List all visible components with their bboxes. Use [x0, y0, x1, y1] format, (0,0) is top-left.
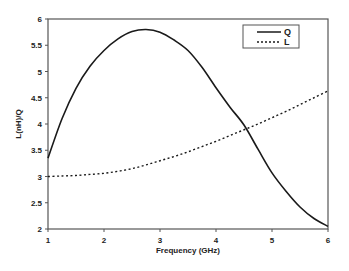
y-tick-label: 3.5	[31, 146, 43, 155]
legend: Q L	[243, 25, 299, 48]
legend-q-label: Q	[284, 27, 291, 37]
y-tick-label: 2.5	[31, 199, 43, 208]
y-axis-title: L(nH)/Q	[14, 109, 23, 138]
x-tick-label: 3	[158, 236, 163, 245]
x-axis-title: Frequency (GHz)	[156, 246, 220, 255]
y-tick-label: 4	[38, 120, 43, 129]
series-q-line	[48, 29, 328, 226]
series-layer	[48, 29, 328, 226]
y-tick-label: 2	[38, 225, 43, 234]
y-tick-label: 3	[38, 173, 43, 182]
x-tick-label: 1	[46, 236, 51, 245]
line-chart: 22.533.544.555.56 123456 Frequency (GHz)…	[0, 0, 349, 271]
x-tick-label: 5	[270, 236, 275, 245]
y-tick-label: 4.5	[31, 94, 43, 103]
y-axis-ticks: 22.533.544.555.56	[31, 15, 48, 234]
y-tick-label: 6	[38, 15, 43, 24]
x-axis-ticks: 123456	[46, 229, 331, 245]
x-tick-label: 6	[326, 236, 331, 245]
legend-l-label: L	[284, 37, 290, 47]
x-tick-label: 4	[214, 236, 219, 245]
series-l-line	[48, 91, 328, 177]
y-tick-label: 5.5	[31, 41, 43, 50]
y-tick-label: 5	[38, 68, 43, 77]
x-tick-label: 2	[102, 236, 107, 245]
